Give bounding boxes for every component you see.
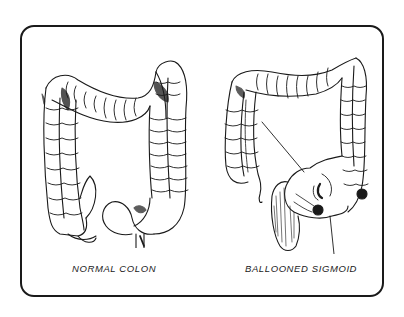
- ballooned-sigmoid-illustration: [222, 56, 372, 254]
- caption-ballooned-sigmoid: BALLOONED SIGMOID: [245, 263, 357, 274]
- pointer-line-upper: [262, 122, 304, 172]
- normal-colon-illustration: [38, 58, 198, 248]
- caption-normal-colon: NORMAL COLON: [72, 263, 156, 274]
- pointer-line-lower: [330, 216, 334, 254]
